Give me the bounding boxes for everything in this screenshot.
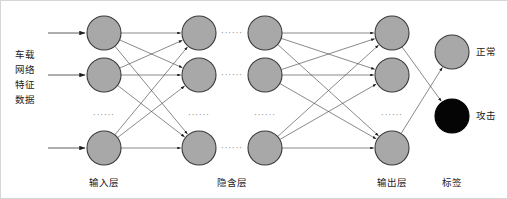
node-output-layer-1 bbox=[375, 16, 409, 50]
output-layer-label: 输出层 bbox=[377, 177, 407, 188]
node-hidden-layer-right-1 bbox=[248, 16, 282, 50]
node-output-layer-2 bbox=[375, 58, 409, 92]
input-data-label-line-3: 特征 bbox=[15, 79, 35, 90]
node-hidden-layer-right-2 bbox=[248, 58, 282, 92]
node-output-layer-3 bbox=[375, 131, 409, 165]
hidden-layer-label: 隐含层 bbox=[217, 177, 247, 188]
node-input-layer-1 bbox=[87, 16, 121, 50]
node-tag-layer-1 bbox=[435, 35, 469, 69]
node-hidden-layer-right-3 bbox=[248, 131, 282, 165]
ellipsis-hidden-layer-right: ······ bbox=[254, 111, 276, 120]
ellipsis-hidden-layer-left: ······ bbox=[188, 111, 210, 120]
ellipsis-output-layer: ······ bbox=[381, 111, 403, 120]
node-tag-layer-2 bbox=[435, 99, 469, 133]
hidden-gap-dots-1: ······ bbox=[221, 29, 243, 38]
node-hidden-layer-left-3 bbox=[182, 131, 216, 165]
node-input-layer-3 bbox=[87, 131, 121, 165]
node-hidden-layer-left-1 bbox=[182, 16, 216, 50]
input-layer-label: 输入层 bbox=[89, 177, 119, 188]
tag-layer-label: 标签 bbox=[442, 177, 462, 188]
input-data-label-line-4: 数据 bbox=[15, 94, 35, 105]
label-attack: 攻击 bbox=[476, 110, 496, 121]
input-data-label-line-2: 网络 bbox=[15, 64, 35, 75]
node-hidden-layer-left-2 bbox=[182, 58, 216, 92]
input-data-label-line-1: 车载 bbox=[15, 49, 35, 60]
label-normal: 正常 bbox=[476, 46, 496, 57]
node-input-layer-2 bbox=[87, 58, 121, 92]
neural-network-diagram: ········································… bbox=[0, 0, 508, 199]
hidden-gap-dots-3: ······ bbox=[221, 144, 243, 153]
ellipsis-input-layer: ······ bbox=[93, 111, 115, 120]
hidden-gap-dots-2: ······ bbox=[221, 71, 243, 80]
diagram-canvas: ········································… bbox=[0, 0, 508, 199]
